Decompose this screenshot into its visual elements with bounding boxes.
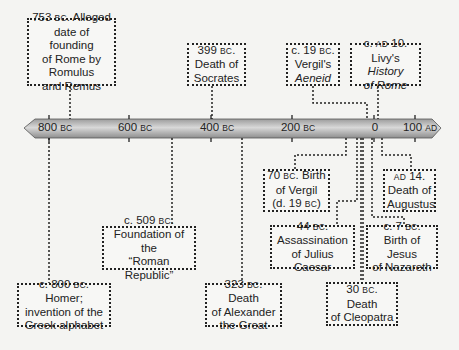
timeline-diagram: 800 BC 600 BC 400 BC 200 BC 0 100 AD 753… bbox=[0, 0, 459, 350]
tick-label-400bc: 400 BC bbox=[200, 121, 234, 133]
event-roman-republic: c. 509 BC. Foundation of the “Roman Repu… bbox=[102, 226, 196, 270]
event-caesar-assassination: 44 BC. Assassination of Julius Caesar bbox=[270, 225, 355, 269]
tick-label-100ad: 100 AD bbox=[403, 121, 437, 133]
event-livy-history: c. AD 10. Livy's History of Rome bbox=[350, 43, 421, 86]
event-socrates-death: 399 BC. Death of Socrates bbox=[187, 43, 246, 86]
event-alexander-death: 323 BC. Death of Alexander the Great bbox=[205, 283, 282, 327]
event-aeneid: c. 19 BC. Vergil's Aeneid bbox=[286, 43, 340, 86]
event-homer: c. 800 BC. Homer; invention of the Greek… bbox=[17, 283, 111, 327]
tick-label-800bc: 800 BC bbox=[38, 121, 72, 133]
event-augustus-death: AD 14. Death of Augustus bbox=[383, 169, 436, 212]
tick-label-0: 0 bbox=[372, 121, 378, 133]
tick-label-600bc: 600 BC bbox=[118, 121, 152, 133]
event-rome-founding: 753 BC. Alleged date of founding of Rome… bbox=[27, 18, 116, 86]
event-cleopatra-death: 30 BC. Death of Cleopatra bbox=[326, 282, 398, 326]
event-jesus-birth: c. 7 BC. Birth of Jesus of Nazareth bbox=[366, 225, 438, 269]
event-vergil-birth: 70 BC. Birth of Vergil (d. 19 BC) bbox=[263, 169, 330, 212]
tick-label-200bc: 200 BC bbox=[281, 121, 315, 133]
